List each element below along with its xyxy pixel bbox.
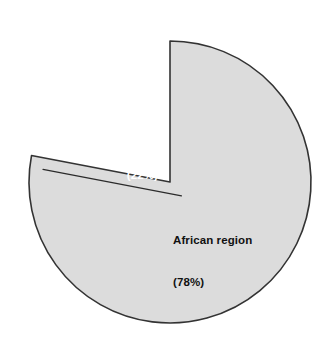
slice-label-rest-line3: (22%) — [106, 168, 158, 182]
slice-label-rest-line1: Rest of — [106, 84, 158, 98]
slice-label-rest-line2: the world — [106, 126, 158, 140]
slice-label-rest-of-world: Rest of the world (22%) — [106, 56, 158, 210]
slice-label-african-line2: (78%) — [173, 275, 252, 289]
pie-slice-african-region — [29, 41, 311, 323]
slice-label-african-region: African region (78%) — [173, 205, 252, 317]
slice-label-african-line1: African region — [173, 233, 252, 247]
pie-chart-figure: Rest of the world (22%) African region (… — [0, 0, 328, 348]
pie-chart-canvas — [0, 0, 328, 348]
